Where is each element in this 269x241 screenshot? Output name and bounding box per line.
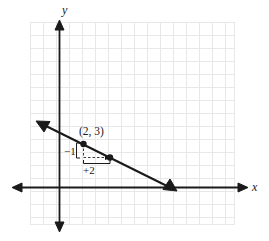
run-bracket (84, 160, 111, 164)
x-axis-arrow-right (238, 183, 248, 192)
y-axis-label: y (62, 4, 67, 16)
run-label: +2 (83, 165, 95, 176)
point-second (107, 154, 113, 160)
rise-bracket (77, 143, 81, 158)
graph-canvas (0, 0, 269, 241)
grid-lines (30, 22, 235, 225)
rise-label: −1 (64, 146, 76, 157)
coordinate-graph-figure: y x (2, 3) −1 +2 (0, 0, 269, 241)
x-axis-arrow-left (12, 183, 22, 192)
point-2-3 (80, 141, 86, 147)
y-axis-arrow-down (55, 222, 64, 232)
point-coordinate-label: (2, 3) (79, 126, 104, 138)
x-axis-label: x (252, 181, 257, 193)
